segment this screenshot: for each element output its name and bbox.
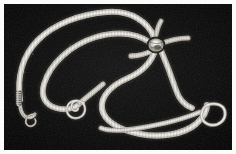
worm-micrograph-svg [4, 4, 232, 150]
figure-root: Black and white photomicrograph showing … [0, 0, 236, 154]
photographic-plate [4, 4, 232, 150]
film-grain-overlay [4, 4, 232, 150]
